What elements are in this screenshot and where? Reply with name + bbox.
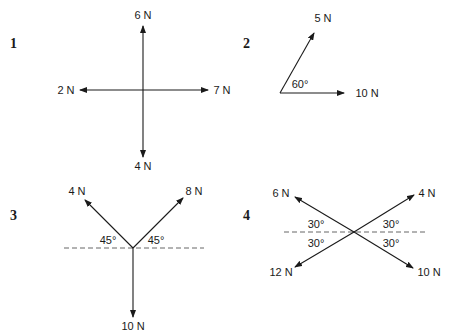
diagram-number: 3 xyxy=(10,208,17,223)
force-label-right: 7 N xyxy=(213,84,230,96)
angle-label-lower-left: 30° xyxy=(308,237,325,249)
force-label-horizontal: 10 N xyxy=(355,87,378,99)
force-label-up: 6 N xyxy=(134,9,151,21)
force-diagrams: 1 6 N 2 N 7 N 4 N 2 5 N 10 N 60° 3 4 N 8… xyxy=(0,0,450,336)
force-label-upper-right: 8 N xyxy=(185,185,202,197)
force-label-lower-left: 12 N xyxy=(269,266,292,278)
angle-label-upper-left: 30° xyxy=(308,218,325,230)
force-label-upper-left: 6 N xyxy=(272,187,289,199)
diagram-number: 2 xyxy=(243,36,250,51)
diagram-number: 4 xyxy=(243,208,250,223)
force-arrow-upper-left xyxy=(295,197,354,232)
diagram-3: 3 4 N 8 N 10 N 45° 45° xyxy=(10,185,204,332)
diagram-2: 2 5 N 10 N 60° xyxy=(243,12,379,99)
force-label-down: 4 N xyxy=(134,160,151,172)
angle-label-upper-right: 30° xyxy=(383,218,400,230)
force-label-angled: 5 N xyxy=(314,12,331,24)
force-arrow-lower-left xyxy=(295,232,354,267)
force-label-down: 10 N xyxy=(121,320,144,332)
force-label-upper-right: 4 N xyxy=(418,187,435,199)
angle-label: 60° xyxy=(292,78,309,90)
diagram-4: 4 6 N 4 N 12 N 10 N 30° 30° 30° 30° xyxy=(243,187,441,278)
force-label-upper-left: 4 N xyxy=(68,185,85,197)
force-label-lower-right: 10 N xyxy=(417,266,440,278)
diagram-number: 1 xyxy=(10,36,17,51)
diagram-1: 1 6 N 2 N 7 N 4 N xyxy=(10,9,231,172)
angle-label-lower-right: 30° xyxy=(383,237,400,249)
force-label-left: 2 N xyxy=(57,84,74,96)
angle-label-left: 45° xyxy=(100,234,117,246)
angle-label-right: 45° xyxy=(148,234,165,246)
